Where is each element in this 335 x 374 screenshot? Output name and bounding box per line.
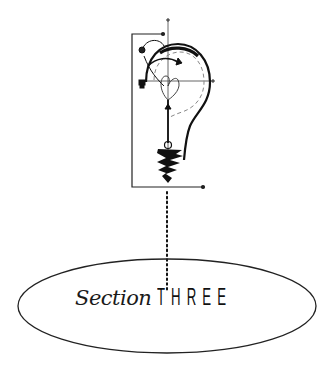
section-title: Section THREE (75, 283, 294, 315)
section-script-word: Section (75, 286, 151, 310)
section-number-word: THREE (157, 283, 232, 311)
section-illustration (0, 0, 335, 374)
coil-base-icon (157, 149, 183, 183)
question-bulb-icon (139, 40, 210, 160)
